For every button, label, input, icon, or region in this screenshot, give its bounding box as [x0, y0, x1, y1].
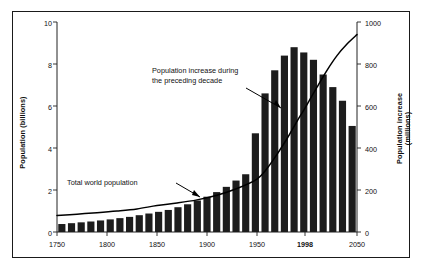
bar: [68, 223, 75, 232]
bar: [252, 133, 259, 232]
bar: [126, 217, 133, 232]
bar: [261, 93, 268, 232]
bar: [136, 215, 143, 232]
bar: [213, 192, 220, 232]
bar: [155, 212, 162, 232]
bar: [320, 75, 327, 233]
bar: [194, 201, 201, 233]
arrow-total-head: [192, 190, 200, 197]
bar: [174, 207, 181, 232]
population-chart-figure: Population (billions) Population increas…: [0, 0, 422, 270]
bar: [300, 52, 307, 232]
bar: [310, 60, 317, 232]
bar: [291, 47, 298, 232]
bar: [271, 70, 278, 232]
bar: [116, 218, 123, 232]
bar: [339, 101, 346, 232]
bar: [203, 197, 210, 232]
bar: [184, 204, 191, 232]
bar: [78, 222, 85, 232]
bar: [165, 210, 172, 232]
bar: [107, 219, 114, 232]
bar: [58, 224, 65, 232]
bar-series: [58, 47, 355, 232]
bar: [97, 220, 104, 232]
bar: [329, 87, 336, 232]
bar: [87, 222, 94, 233]
bar: [145, 214, 152, 232]
plot-canvas: [0, 0, 422, 270]
bar: [349, 126, 356, 232]
